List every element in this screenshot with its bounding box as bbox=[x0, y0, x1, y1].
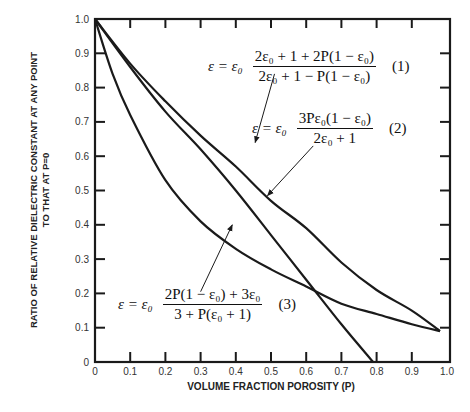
x-tick-label: 0.7 bbox=[334, 366, 348, 377]
equation-3-tag: (3) bbox=[278, 296, 296, 313]
annotation-arrows bbox=[201, 74, 314, 292]
equation-1-numerator: 2ε₀ + 1 + 2P(1 − ε₀) bbox=[253, 48, 376, 67]
y-axis-label: RATIO OF RELATIVE DIELECTRIC CONSTANT AT… bbox=[28, 52, 52, 328]
x-tick-label: 0.5 bbox=[264, 366, 278, 377]
y-axis-label-wrap: RATIO OF RELATIVE DIELECTRIC CONSTANT AT… bbox=[0, 0, 80, 370]
equation-2-fraction: 3Pε₀(1 − ε₀) 2ε₀ + 1 bbox=[297, 110, 373, 147]
x-tick-label: 0.8 bbox=[370, 366, 384, 377]
annotation-arrow-2 bbox=[267, 146, 313, 196]
equation-1-tag: (1) bbox=[392, 58, 410, 75]
x-tick-label: 0.4 bbox=[229, 366, 243, 377]
equation-1-fraction: 2ε₀ + 1 + 2P(1 − ε₀) 2ε₀ + 1 − P(1 − ε₀) bbox=[253, 48, 376, 85]
x-tick-label: 0.6 bbox=[299, 366, 313, 377]
equation-1-denominator: 2ε₀ + 1 − P(1 − ε₀) bbox=[256, 67, 372, 85]
x-tick-label: 0.1 bbox=[123, 366, 137, 377]
equation-3: ε = ε₀ 2P(1 − ε₀) + 3ε₀ 3 + P(ε₀ + 1) (3… bbox=[118, 286, 296, 323]
equation-3-denominator: 3 + P(ε₀ + 1) bbox=[172, 305, 253, 323]
equation-3-numerator: 2P(1 − ε₀) + 3ε₀ bbox=[163, 286, 263, 305]
y-axis-label-line-1: RATIO OF RELATIVE DIELECTRIC CONSTANT AT… bbox=[28, 52, 40, 328]
equation-3-lhs: ε = ε₀ bbox=[118, 296, 153, 313]
equation-3-fraction: 2P(1 − ε₀) + 3ε₀ 3 + P(ε₀ + 1) bbox=[163, 286, 263, 323]
equation-2: ε = ε₀ 3Pε₀(1 − ε₀) 2ε₀ + 1 (2) bbox=[252, 110, 407, 147]
equation-1: ε = ε₀ 2ε₀ + 1 + 2P(1 − ε₀) 2ε₀ + 1 − P(… bbox=[208, 48, 409, 85]
equation-2-lhs: ε = ε₀ bbox=[252, 120, 287, 137]
y-tick-label: 0 bbox=[83, 357, 89, 368]
x-axis-label: VOLUME FRACTION POROSITY (P) bbox=[95, 381, 447, 392]
y-axis-label-line-2: TO THAT AT P=0 bbox=[40, 52, 52, 328]
equation-1-lhs: ε = ε₀ bbox=[208, 58, 243, 75]
equation-2-numerator: 3Pε₀(1 − ε₀) bbox=[297, 110, 373, 129]
x-tick-label: 0.3 bbox=[194, 366, 208, 377]
x-tick-label: 0 bbox=[92, 366, 98, 377]
equation-2-tag: (2) bbox=[389, 120, 407, 137]
x-tick-label: 0.2 bbox=[158, 366, 172, 377]
x-tick-label: 1.0 bbox=[440, 366, 454, 377]
x-tick-label: 0.9 bbox=[405, 366, 419, 377]
equation-2-denominator: 2ε₀ + 1 bbox=[312, 129, 359, 147]
